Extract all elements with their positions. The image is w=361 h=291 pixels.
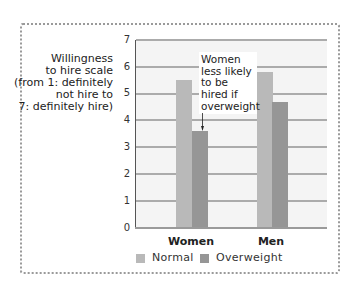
y-tick-5: 5 <box>122 88 132 98</box>
y-tick-0: 0 <box>122 223 132 233</box>
legend-label-overweight: Overweight <box>216 252 283 264</box>
gridline-4 <box>136 119 327 121</box>
bar-men-overweight <box>272 102 288 228</box>
y-tick-2: 2 <box>122 169 132 179</box>
x-category-men: Men <box>241 235 301 248</box>
y-tick-3: 3 <box>122 142 132 152</box>
y-tick-1: 1 <box>122 196 132 206</box>
annotation-arrow-icon <box>201 113 204 131</box>
y-tick-6: 6 <box>122 62 132 72</box>
gridline-3 <box>136 146 327 148</box>
y-axis-title: Willingness to hire scale (from 1: defin… <box>0 53 113 113</box>
gridline-1 <box>136 200 327 202</box>
y-tick-4: 4 <box>122 115 132 125</box>
annotation-line-5: overweight <box>201 101 257 113</box>
gridline-7 <box>136 39 327 41</box>
x-axis-baseline <box>135 227 327 229</box>
legend-label-normal: Normal <box>152 252 194 264</box>
x-category-women: Women <box>161 235 221 248</box>
y-tick-7: 7 <box>122 35 132 45</box>
legend-swatch-overweight <box>200 254 209 263</box>
annotation-line-1: Women <box>201 54 257 66</box>
legend-swatch-normal <box>136 254 145 263</box>
annotation-callout: Women less likely to be hired if overwei… <box>199 52 257 114</box>
gridline-2 <box>136 173 327 175</box>
bar-men-normal <box>257 72 273 228</box>
y-axis-title-line-5: 7: definitely hire) <box>0 101 113 113</box>
bar-women-overweight <box>192 131 208 228</box>
bar-women-normal <box>176 80 192 228</box>
